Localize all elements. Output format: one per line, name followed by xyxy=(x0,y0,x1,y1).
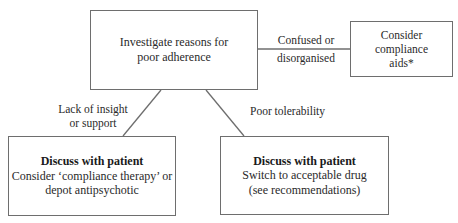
edge-label-poor-tolerability: Poor tolerability xyxy=(250,104,330,118)
edge-main-to-tolerability xyxy=(206,90,244,136)
node-compliance-aids: Consider compliance aids* xyxy=(350,21,453,77)
node-title: Discuss with patient xyxy=(41,154,144,169)
edge-label-line: Confused or xyxy=(268,33,344,47)
edge-label-confused: Confused or disorganised xyxy=(268,33,344,65)
node-investigate-reasons: Investigate reasons for poor adherence xyxy=(90,10,258,90)
node-text-line: poor adherence xyxy=(137,50,211,65)
edge-label-line: disorganised xyxy=(268,51,344,65)
node-text-line: Consider xyxy=(381,28,423,42)
edge-label-line: Poor tolerability xyxy=(250,104,330,118)
node-text-line: (see recommendations) xyxy=(249,183,361,198)
node-text-line: compliance xyxy=(375,42,428,56)
node-title: Discuss with patient xyxy=(253,154,356,169)
node-text-line: aids* xyxy=(389,56,413,70)
edge-label-line: Lack of insight xyxy=(48,102,138,116)
node-text-line: Switch to acceptable drug xyxy=(242,168,366,183)
node-text-line: depot antipsychotic xyxy=(45,183,139,198)
node-text-line: Investigate reasons for xyxy=(120,35,229,50)
node-text-line: Consider ‘compliance therapy’ or xyxy=(12,169,173,184)
edge-label-line: or support xyxy=(48,116,138,130)
node-discuss-compliance-therapy: Discuss with patient Consider ‘complianc… xyxy=(8,136,176,216)
node-discuss-switch-drug: Discuss with patient Switch to acceptabl… xyxy=(220,136,389,215)
edge-label-lack-of-insight: Lack of insight or support xyxy=(48,102,138,130)
